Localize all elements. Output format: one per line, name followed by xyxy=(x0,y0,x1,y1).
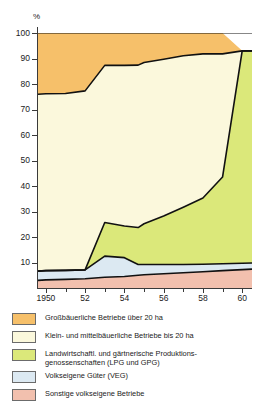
y-tick-label: 30 xyxy=(2,207,30,216)
stacked-area-chart: % 102030405060708090100 19505254565860 xyxy=(0,0,262,305)
y-tick xyxy=(32,263,37,264)
y-tick-label: 60 xyxy=(2,131,30,140)
legend-item-5[interactable]: Sonstige volkseigene Betriebe xyxy=(12,388,252,403)
y-tick-label: 10 xyxy=(2,258,30,267)
legend-label: Klein- und mittelbäuerliche Betriebe bis… xyxy=(45,330,194,340)
y-tick xyxy=(32,161,37,162)
legend-label-line2: genossenschaften (LPG und GPG) xyxy=(45,358,197,367)
x-tick xyxy=(66,289,67,292)
y-axis-unit-label: % xyxy=(33,12,40,21)
chart-page: % 102030405060708090100 19505254565860 G… xyxy=(0,0,262,408)
legend-label: Großbäuerliche Betriebe über 20 ha xyxy=(45,312,163,322)
legend-swatch xyxy=(12,349,36,361)
x-tick-label: 60 xyxy=(237,294,246,303)
y-tick xyxy=(32,84,37,85)
legend-label-line1: Klein- und mittelbäuerliche Betriebe bis… xyxy=(45,331,194,340)
legend-label-line1: Großbäuerliche Betriebe über 20 ha xyxy=(45,313,163,322)
y-tick-label: 90 xyxy=(2,54,30,63)
y-tick xyxy=(32,59,37,60)
y-tick-label: 70 xyxy=(2,105,30,114)
legend-label-line1: Landwirtschaftl. und gärtnerische Produk… xyxy=(45,349,197,358)
x-tick-label: 1950 xyxy=(36,294,55,303)
plot-area xyxy=(38,33,252,288)
legend-item-1[interactable]: Großbäuerliche Betriebe über 20 ha xyxy=(12,312,252,327)
x-tick xyxy=(105,289,106,292)
x-tick-label: 52 xyxy=(80,294,89,303)
y-tick xyxy=(32,237,37,238)
x-tick xyxy=(223,289,224,292)
y-tick-label: 100 xyxy=(2,29,30,38)
legend-swatch xyxy=(12,331,36,343)
legend-label-line1: Volkseigene Güter (VEG) xyxy=(45,371,128,380)
y-tick xyxy=(32,135,37,136)
chart-legend: Großbäuerliche Betriebe über 20 haKlein-… xyxy=(12,312,252,406)
y-tick xyxy=(32,212,37,213)
x-tick-label: 54 xyxy=(120,294,129,303)
x-tick-label: 58 xyxy=(198,294,207,303)
y-tick xyxy=(32,110,37,111)
legend-label: Volkseigene Güter (VEG) xyxy=(45,370,128,380)
y-tick xyxy=(32,186,37,187)
y-tick-label: 80 xyxy=(2,80,30,89)
legend-swatch xyxy=(12,313,36,325)
x-tick xyxy=(144,289,145,292)
y-tick xyxy=(32,33,37,34)
y-tick-label: 40 xyxy=(2,182,30,191)
legend-item-3[interactable]: Landwirtschaftl. und gärtnerische Produk… xyxy=(12,348,252,367)
legend-label: Landwirtschaftl. und gärtnerische Produk… xyxy=(45,348,197,367)
legend-label-line1: Sonstige volkseigene Betriebe xyxy=(45,389,144,398)
legend-swatch xyxy=(12,389,36,401)
legend-label: Sonstige volkseigene Betriebe xyxy=(45,388,144,398)
legend-item-2[interactable]: Klein- und mittelbäuerliche Betriebe bis… xyxy=(12,330,252,345)
legend-item-4[interactable]: Volkseigene Güter (VEG) xyxy=(12,370,252,385)
y-tick-label: 50 xyxy=(2,156,30,165)
x-tick-label: 56 xyxy=(159,294,168,303)
legend-swatch xyxy=(12,371,36,383)
area-series-group xyxy=(38,33,252,288)
x-tick xyxy=(183,289,184,292)
y-tick-label: 20 xyxy=(2,233,30,242)
